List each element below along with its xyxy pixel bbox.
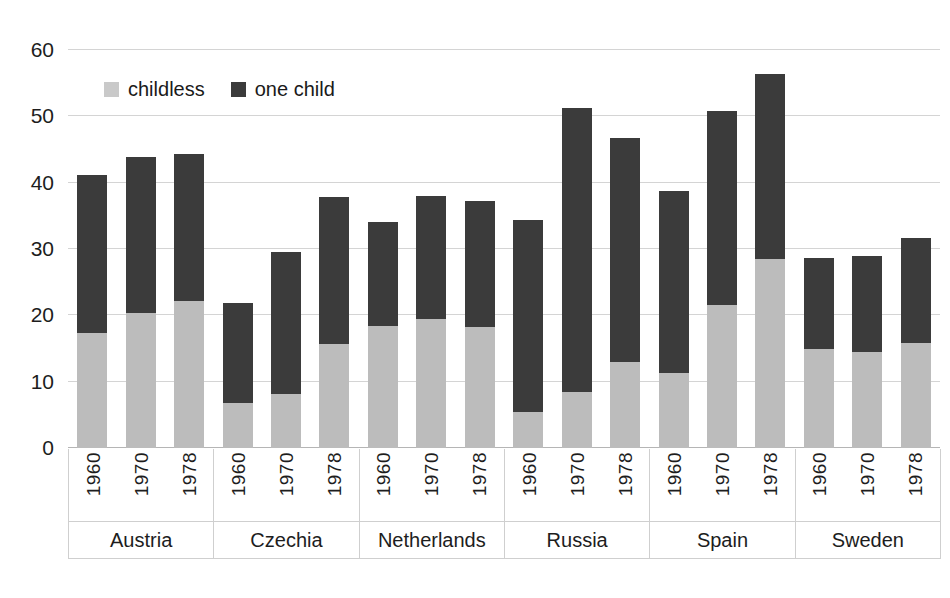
bar-segment-one-child <box>126 157 156 313</box>
bar-netherlands-1970[interactable] <box>416 196 446 448</box>
x-tick-label-russia-1970: 1970 <box>568 452 587 496</box>
y-tick-label-60: 60 <box>31 38 54 62</box>
bar-austria-1978[interactable] <box>174 153 204 448</box>
bar-segment-childless <box>319 344 349 448</box>
x-axis-group-czechia: 196019701978Czechia <box>213 449 359 559</box>
bar-segment-one-child <box>804 258 834 348</box>
x-tick-label-czechia-1970: 1970 <box>277 452 296 496</box>
bar-austria-1970[interactable] <box>126 157 156 448</box>
y-tick-label-40: 40 <box>31 171 54 195</box>
bar-segment-one-child <box>416 196 446 319</box>
legend-item-one-child[interactable]: one child <box>231 78 335 101</box>
x-tick-label-czechia-1978: 1978 <box>325 452 344 496</box>
legend-label-one-child: one child <box>255 78 335 101</box>
bar-segment-childless <box>223 403 253 448</box>
bar-netherlands-1960[interactable] <box>368 222 398 448</box>
bar-sweden-1970[interactable] <box>852 256 882 448</box>
bar-czechia-1970[interactable] <box>271 252 301 448</box>
bar-segment-childless <box>610 362 640 448</box>
x-tick-label-sweden-1978: 1978 <box>906 452 925 496</box>
gridline-60 <box>68 49 940 50</box>
bar-segment-childless <box>368 326 398 448</box>
country-label-netherlands: Netherlands <box>378 529 486 552</box>
bar-netherlands-1978[interactable] <box>465 201 495 448</box>
legend-item-childless[interactable]: childless <box>104 78 205 101</box>
bar-segment-one-child <box>271 252 301 394</box>
country-label-czechia: Czechia <box>250 529 322 552</box>
x-axis-group-russia: 196019701978Russia <box>504 449 650 559</box>
year-label-row: 196019701978 <box>360 449 504 521</box>
x-axis-group-netherlands: 196019701978Netherlands <box>359 449 505 559</box>
bar-spain-1978[interactable] <box>755 74 785 448</box>
x-axis-group-austria: 196019701978Austria <box>68 449 214 559</box>
x-axis: 196019701978Austria196019701978Czechia19… <box>68 449 940 559</box>
chart-legend: childless one child <box>104 78 335 101</box>
bar-segment-childless <box>707 305 737 448</box>
legend-swatch-childless-icon <box>104 82 119 97</box>
bar-segment-childless <box>271 394 301 448</box>
bar-segment-one-child <box>223 303 253 403</box>
x-axis-groups: 196019701978Austria196019701978Czechia19… <box>68 449 940 559</box>
x-tick-label-spain-1970: 1970 <box>713 452 732 496</box>
bar-segment-childless <box>174 301 204 448</box>
x-tick-label-netherlands-1960: 1960 <box>374 452 393 496</box>
x-tick-label-austria-1960: 1960 <box>84 452 103 496</box>
country-label-spain: Spain <box>697 529 748 552</box>
bar-segment-childless <box>465 327 495 448</box>
x-tick-label-spain-1960: 1960 <box>665 452 684 496</box>
bar-segment-one-child <box>465 201 495 327</box>
country-label-cell: Russia <box>505 521 649 558</box>
plot-area <box>68 50 940 448</box>
bar-segment-childless <box>755 259 785 448</box>
y-tick-label-30: 30 <box>31 237 54 261</box>
y-tick-label-0: 0 <box>42 436 54 460</box>
x-tick-label-sweden-1970: 1970 <box>858 452 877 496</box>
bar-segment-one-child <box>901 238 931 343</box>
bar-sweden-1960[interactable] <box>804 258 834 448</box>
x-tick-label-spain-1978: 1978 <box>761 452 780 496</box>
x-tick-label-austria-1978: 1978 <box>180 452 199 496</box>
bar-austria-1960[interactable] <box>77 175 107 448</box>
bar-segment-one-child <box>610 138 640 362</box>
country-label-cell: Sweden <box>796 521 940 558</box>
stacked-bar-chart: 0102030405060 childless one child 196019… <box>0 0 950 598</box>
year-label-row: 196019701978 <box>69 449 213 521</box>
bar-segment-childless <box>77 333 107 448</box>
y-tick-label-50: 50 <box>31 104 54 128</box>
x-tick-label-russia-1978: 1978 <box>616 452 635 496</box>
bar-segment-childless <box>126 313 156 448</box>
country-label-cell: Spain <box>650 521 794 558</box>
country-label-cell: Austria <box>69 521 213 558</box>
year-label-row: 196019701978 <box>650 449 794 521</box>
bar-spain-1960[interactable] <box>659 191 689 448</box>
bar-segment-one-child <box>319 197 349 344</box>
bar-segment-childless <box>852 352 882 448</box>
bar-segment-one-child <box>707 111 737 305</box>
year-label-row: 196019701978 <box>796 449 940 521</box>
y-axis: 0102030405060 <box>0 50 62 448</box>
bar-segment-one-child <box>77 175 107 333</box>
bar-czechia-1960[interactable] <box>223 303 253 448</box>
x-tick-label-netherlands-1970: 1970 <box>422 452 441 496</box>
bar-segment-childless <box>562 392 592 448</box>
country-label-cell: Netherlands <box>360 521 504 558</box>
bar-russia-1978[interactable] <box>610 138 640 448</box>
bar-segment-childless <box>804 349 834 449</box>
bar-segment-childless <box>659 373 689 448</box>
bar-spain-1970[interactable] <box>707 111 737 448</box>
country-label-austria: Austria <box>110 529 172 552</box>
gridline-50 <box>68 115 940 116</box>
x-axis-group-spain: 196019701978Spain <box>649 449 795 559</box>
year-label-row: 196019701978 <box>214 449 358 521</box>
bar-russia-1960[interactable] <box>513 220 543 448</box>
bar-sweden-1978[interactable] <box>901 238 931 448</box>
country-label-russia: Russia <box>547 529 608 552</box>
x-axis-group-sweden: 196019701978Sweden <box>795 449 941 559</box>
bar-segment-childless <box>416 319 446 448</box>
legend-label-childless: childless <box>128 78 205 101</box>
bar-czechia-1978[interactable] <box>319 197 349 448</box>
bar-segment-one-child <box>513 220 543 412</box>
bar-russia-1970[interactable] <box>562 108 592 448</box>
legend-swatch-one-child-icon <box>231 82 246 97</box>
bar-segment-one-child <box>368 222 398 326</box>
